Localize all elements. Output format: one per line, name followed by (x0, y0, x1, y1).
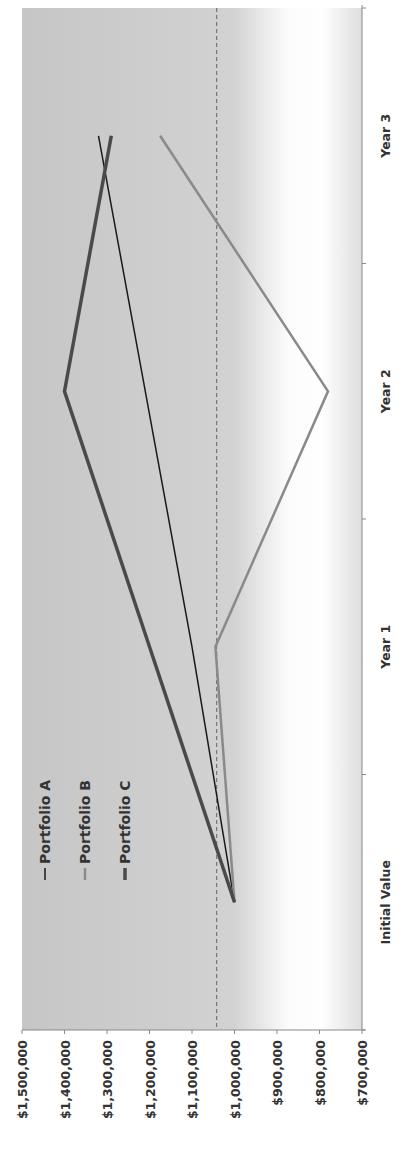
category-label: Year 3 (378, 114, 393, 159)
legend-label: Portfolio A (37, 780, 53, 864)
value-tick-label: $1,100,000 (185, 1040, 200, 1119)
category-label: Initial Value (378, 860, 393, 944)
value-tick-label: $1,300,000 (100, 1040, 115, 1119)
value-tick-label: $1,000,000 (228, 1040, 243, 1119)
value-tick-label: $1,400,000 (58, 1040, 73, 1119)
line-chart: $1,500,000$1,400,000$1,300,000$1,200,000… (0, 0, 415, 1171)
value-tick-label: $700,000 (355, 1040, 370, 1106)
value-tick-label: $800,000 (313, 1040, 328, 1106)
value-tick-label: $1,200,000 (143, 1040, 158, 1119)
legend-label: Portfolio B (77, 780, 93, 864)
category-label: Year 2 (378, 369, 393, 414)
category-label: Year 1 (378, 625, 393, 670)
value-tick-label: $1,500,000 (15, 1040, 30, 1119)
legend-label: Portfolio C (117, 780, 133, 864)
plot-area (22, 8, 362, 1030)
value-tick-label: $900,000 (270, 1040, 285, 1106)
